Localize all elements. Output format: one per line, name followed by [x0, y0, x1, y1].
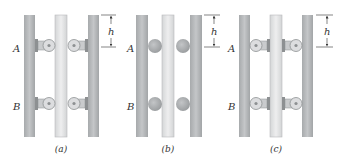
- dimension-h: h: [204, 15, 220, 47]
- ball-b-left: [148, 97, 162, 111]
- point-label-b: B: [126, 101, 134, 112]
- roller-b-left: [35, 97, 55, 110]
- left-rail: [24, 15, 35, 137]
- point-label-a: A: [227, 43, 235, 54]
- point-label-b: B: [12, 101, 20, 112]
- ball-b-right: [176, 97, 190, 111]
- panel-b: h A B (b): [126, 15, 220, 154]
- roller-a-left: [35, 39, 55, 52]
- right-rail: [302, 15, 313, 137]
- roller-a-right: [68, 39, 88, 52]
- dimension-label: h: [211, 26, 217, 37]
- point-label-a: A: [12, 43, 20, 54]
- figure: h A B (a) h A B (b): [0, 0, 342, 162]
- left-rail: [136, 15, 148, 137]
- dimension-label: h: [108, 26, 114, 37]
- ball-a-right: [176, 39, 190, 53]
- panel-caption: (b): [162, 144, 175, 154]
- roller-a-right: [282, 39, 302, 52]
- panel-c: h A B (c): [227, 15, 333, 154]
- panel-caption: (a): [55, 144, 68, 154]
- dimension-label: h: [324, 26, 330, 37]
- left-rail: [239, 15, 250, 137]
- point-label-b: B: [227, 101, 235, 112]
- point-label-a: A: [126, 43, 134, 54]
- panel-caption: (c): [270, 144, 283, 154]
- roller-b-right: [282, 97, 302, 110]
- ball-a-left: [148, 39, 162, 53]
- dimension-h: h: [316, 15, 333, 47]
- center-bar: [270, 15, 282, 137]
- dimension-h: h: [101, 15, 116, 47]
- center-bar: [162, 15, 174, 137]
- center-bar: [55, 15, 67, 137]
- roller-b-left: [250, 97, 270, 110]
- roller-b-right: [68, 97, 88, 110]
- panel-a: h A B (a): [12, 15, 116, 154]
- right-rail: [190, 15, 202, 137]
- roller-a-left: [250, 39, 270, 52]
- right-rail: [88, 15, 99, 137]
